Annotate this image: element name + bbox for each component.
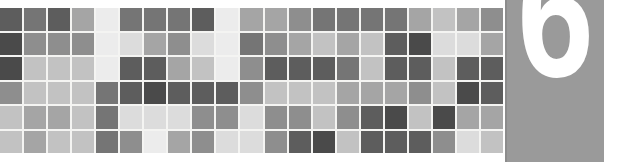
mosaic-cell	[144, 131, 166, 154]
mosaic-cell	[72, 82, 94, 105]
mosaic-cell	[120, 8, 142, 31]
right-margin	[604, 0, 636, 162]
mosaic-cell	[168, 131, 190, 154]
chapter-number-panel: 6	[505, 0, 604, 162]
mosaic-cell	[96, 33, 118, 56]
mosaic-cell	[313, 131, 335, 154]
mosaic-cell	[0, 82, 22, 105]
mosaic-cell	[409, 82, 431, 105]
mosaic-cell	[337, 33, 359, 56]
mosaic-cell	[48, 106, 70, 129]
mosaic-cell	[0, 131, 22, 154]
mosaic-cell	[72, 106, 94, 129]
mosaic-cell	[385, 131, 407, 154]
mosaic-cell	[433, 82, 455, 105]
mosaic-cell	[48, 57, 70, 80]
mosaic-cell	[192, 33, 214, 56]
mosaic-cell	[96, 8, 118, 31]
mosaic-cell	[216, 33, 238, 56]
mosaic-cell	[409, 131, 431, 154]
mosaic-cell	[385, 33, 407, 56]
mosaic-cell	[409, 57, 431, 80]
mosaic-cell	[144, 82, 166, 105]
mosaic-cell	[168, 57, 190, 80]
mosaic-cell	[409, 33, 431, 56]
mosaic-cell	[240, 82, 262, 105]
mosaic-cell	[265, 33, 287, 56]
mosaic-cell	[144, 33, 166, 56]
mosaic-cell	[313, 8, 335, 31]
mosaic-cell	[24, 33, 46, 56]
mosaic-cell	[337, 57, 359, 80]
mosaic-cell	[361, 131, 383, 154]
mosaic-cell	[265, 57, 287, 80]
mosaic-cell	[120, 57, 142, 80]
mosaic-cell	[72, 131, 94, 154]
mosaic-cell	[361, 8, 383, 31]
mosaic-cell	[48, 33, 70, 56]
mosaic-cell	[385, 82, 407, 105]
mosaic-cell	[0, 57, 22, 80]
mosaic-cell	[433, 57, 455, 80]
mosaic-cell	[289, 131, 311, 154]
mosaic-cell	[24, 57, 46, 80]
mosaic-cell	[72, 57, 94, 80]
mosaic-cell	[409, 106, 431, 129]
mosaic-cell	[192, 82, 214, 105]
mosaic-cell	[24, 82, 46, 105]
mosaic-cell	[192, 131, 214, 154]
mosaic-cell	[240, 106, 262, 129]
chapter-number-glyph: 6	[517, 0, 592, 85]
mosaic-cell	[48, 8, 70, 31]
mosaic-cell	[457, 82, 479, 105]
mosaic-cell	[385, 57, 407, 80]
mosaic-cell	[289, 106, 311, 129]
mosaic-cell	[0, 33, 22, 56]
mosaic-cell	[48, 82, 70, 105]
mosaic-cell	[72, 8, 94, 31]
mosaic-cell	[240, 57, 262, 80]
mosaic-cell	[289, 57, 311, 80]
mosaic-cell	[457, 33, 479, 56]
mosaic-cell	[289, 33, 311, 56]
mosaic-cell	[457, 106, 479, 129]
chapter-number: 6	[505, 15, 604, 146]
mosaic-cell	[72, 33, 94, 56]
mosaic-cell	[24, 8, 46, 31]
mosaic-cell	[457, 57, 479, 80]
mosaic-cell	[313, 106, 335, 129]
mosaic-cell	[168, 82, 190, 105]
mosaic-cell	[168, 106, 190, 129]
mosaic-grid	[0, 8, 503, 153]
mosaic-cell	[96, 82, 118, 105]
top-margin	[0, 0, 505, 8]
mosaic-cell	[144, 57, 166, 80]
mosaic-cell	[265, 131, 287, 154]
mosaic-cell	[96, 57, 118, 80]
mosaic-cell	[216, 131, 238, 154]
mosaic-cell	[216, 57, 238, 80]
mosaic-cell	[96, 131, 118, 154]
mosaic-cell	[0, 8, 22, 31]
mosaic-cell	[433, 131, 455, 154]
mosaic-cell	[313, 82, 335, 105]
mosaic-cell	[216, 8, 238, 31]
mosaic-cell	[48, 131, 70, 154]
mosaic-cell	[481, 82, 503, 105]
mosaic-cell	[96, 106, 118, 129]
mosaic-cell	[337, 106, 359, 129]
mosaic-cell	[192, 106, 214, 129]
mosaic-cell	[481, 131, 503, 154]
mosaic-cell	[144, 8, 166, 31]
mosaic-cell	[481, 33, 503, 56]
mosaic-cell	[409, 8, 431, 31]
mosaic-cell	[192, 57, 214, 80]
mosaic-cell	[120, 33, 142, 56]
mosaic-cell	[168, 33, 190, 56]
mosaic-cell	[457, 131, 479, 154]
mosaic-cell	[481, 57, 503, 80]
mosaic-cell	[24, 131, 46, 154]
mosaic-cell	[361, 57, 383, 80]
mosaic-cell	[361, 82, 383, 105]
mosaic-cell	[120, 82, 142, 105]
